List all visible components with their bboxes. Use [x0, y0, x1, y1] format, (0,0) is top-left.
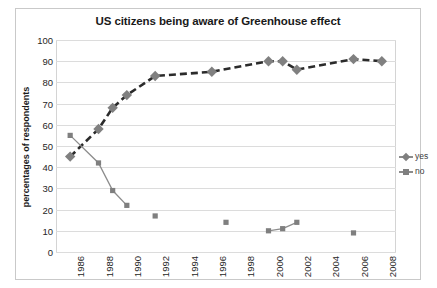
data-point-no	[153, 213, 158, 218]
data-point-no	[280, 226, 285, 231]
y-axis-tick-label: 60	[23, 119, 53, 130]
x-axis-tick-label: 1986	[75, 256, 86, 277]
legend-item-no[interactable]: no	[399, 164, 435, 179]
legend-marker-icon	[399, 167, 413, 176]
data-point-no	[124, 203, 129, 208]
legend-item-yes[interactable]: yes	[399, 149, 435, 164]
chart-title: US citizens being aware of Greenhouse ef…	[16, 15, 420, 27]
gridline	[56, 252, 396, 253]
data-point-no	[110, 188, 115, 193]
data-point-no	[266, 228, 271, 233]
x-axis-tick-label: 2004	[330, 256, 341, 277]
data-point-no	[351, 230, 356, 235]
series-yes	[65, 54, 387, 162]
x-axis-tick-label: 1994	[189, 256, 200, 277]
y-axis-tick-label: 20	[23, 204, 53, 215]
data-point-no	[96, 160, 101, 165]
data-point-no	[294, 220, 299, 225]
data-point-yes	[263, 56, 273, 66]
data-series-layer	[56, 40, 396, 252]
plot-area-wrapper: 1009080706050403020100 19861988199019921…	[56, 40, 396, 252]
series-line-no	[70, 135, 127, 205]
data-point-yes	[277, 56, 287, 66]
y-axis-tick-label: 10	[23, 225, 53, 236]
y-axis-tick-label: 70	[23, 98, 53, 109]
data-point-no	[68, 133, 73, 138]
x-axis-tick-label: 2008	[387, 256, 398, 277]
data-point-yes	[207, 67, 217, 77]
x-axis-tick-label: 1988	[104, 256, 115, 277]
x-axis-tick-label: 2002	[302, 256, 313, 277]
x-axis-tick-label: 2000	[274, 256, 285, 277]
y-axis-tick-label: 30	[23, 183, 53, 194]
data-point-no	[223, 220, 228, 225]
y-axis-tick-label: 0	[23, 247, 53, 258]
x-axis-tick-label: 1998	[245, 256, 256, 277]
y-axis-tick-label: 40	[23, 162, 53, 173]
y-axis-tick-label: 50	[23, 141, 53, 152]
x-axis-tick-label: 1996	[217, 256, 228, 277]
x-axis-tick-label: 2006	[359, 256, 370, 277]
legend-marker-icon	[399, 152, 413, 161]
x-axis-tick-label: 1990	[132, 256, 143, 277]
legend-item-label: no	[415, 167, 424, 176]
x-axis-tick-label: 1992	[160, 256, 171, 277]
y-axis-tick-label: 100	[23, 35, 53, 46]
legend-item-label: yes	[415, 152, 428, 161]
chart-container: US citizens being aware of Greenhouse ef…	[15, 8, 421, 280]
series-no	[68, 133, 357, 236]
chart-legend: yesno	[399, 149, 435, 179]
y-axis-tick-label: 80	[23, 77, 53, 88]
data-point-yes	[348, 54, 358, 64]
data-point-yes	[377, 56, 387, 66]
y-axis-tick-label: 90	[23, 56, 53, 67]
